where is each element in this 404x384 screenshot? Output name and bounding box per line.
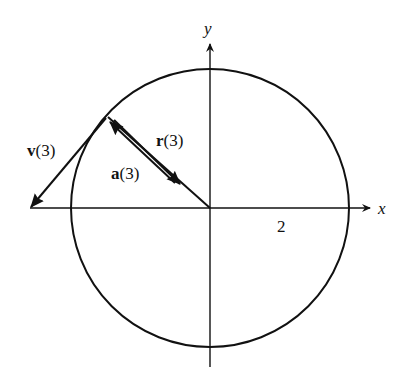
position-label: r(3) — [156, 131, 183, 150]
circular-motion-diagram: y x 2 v(3) r(3) a(3) — [0, 0, 404, 384]
acceleration-label: a(3) — [111, 164, 139, 183]
radius-tick-label: 2 — [277, 217, 286, 236]
x-axis-label: x — [377, 199, 386, 218]
velocity-vector — [31, 118, 106, 207]
velocity-label: v(3) — [27, 141, 55, 160]
y-axis-label: y — [202, 19, 212, 38]
